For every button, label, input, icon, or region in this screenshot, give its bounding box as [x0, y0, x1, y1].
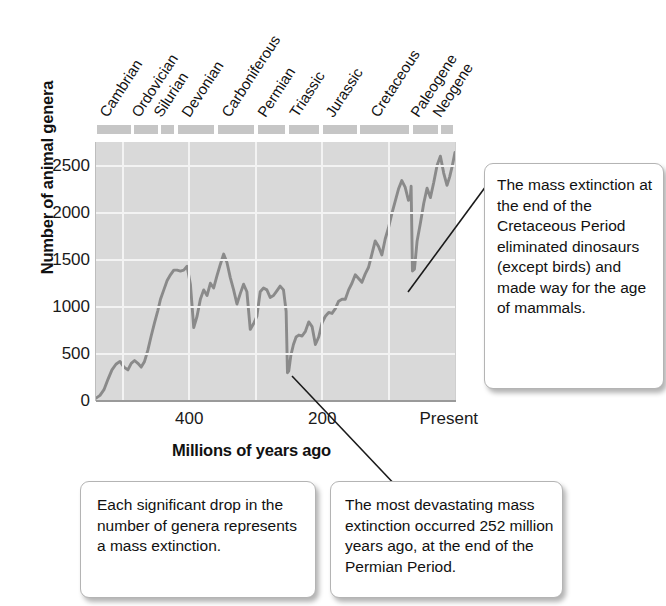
callout-cretaceous-extinction: The mass extinction at the end of the Cr…	[484, 163, 664, 389]
period-band-triassic	[289, 125, 319, 134]
gridline-h	[96, 259, 455, 261]
gridline-v	[388, 142, 390, 401]
callout-drops-text: Each significant drop in the number of g…	[97, 495, 307, 557]
period-label-group: CambrianOrdovicianSilurianDevonianCarbon…	[0, 0, 666, 130]
x-tick-400: 400	[175, 409, 203, 429]
gridline-h	[96, 212, 455, 214]
x-axis-title: Millions of years ago	[172, 441, 331, 460]
gridline-v	[321, 142, 323, 401]
gridline-v	[255, 142, 257, 401]
callout-permian-extinction: The most devastating mass extinction occ…	[330, 481, 563, 598]
callout-permian-text: The most devastating mass extinction occ…	[345, 495, 554, 577]
period-band-paleogene	[413, 125, 438, 134]
geologic-genera-figure: CambrianOrdovicianSilurianDevonianCarbon…	[0, 0, 666, 606]
y-tick-1500: 1500	[32, 251, 90, 268]
y-tick-2000: 2000	[32, 204, 90, 221]
gridline-v	[122, 142, 124, 401]
x-axis-line	[96, 400, 456, 402]
geologic-period-band	[96, 125, 456, 134]
y-tick-0: 0	[32, 392, 90, 409]
gridline-h	[96, 353, 455, 355]
y-tick-2500: 2500	[32, 157, 90, 174]
gridline-h	[96, 306, 455, 308]
plot-area	[96, 142, 456, 401]
callout-significant-drops: Each significant drop in the number of g…	[80, 481, 316, 598]
period-band-permian	[258, 125, 286, 134]
gridline-v	[188, 142, 190, 401]
genera-line-series	[96, 142, 455, 401]
period-band-carboniferous	[218, 125, 254, 134]
period-band-jurassic	[323, 125, 357, 134]
x-tick-present: Present	[420, 409, 479, 429]
x-tick-200: 200	[308, 409, 336, 429]
period-band-devonian	[178, 125, 214, 134]
callout-cretaceous-text: The mass extinction at the end of the Cr…	[497, 175, 654, 319]
period-band-neogene	[441, 125, 453, 134]
y-tick-500: 500	[32, 345, 90, 362]
period-band-cambrian	[97, 125, 131, 134]
period-band-cretaceous	[360, 125, 409, 134]
y-tick-1000: 1000	[32, 298, 90, 315]
period-band-ordovician	[134, 125, 158, 134]
gridline-h	[96, 165, 455, 167]
genera-curve	[96, 152, 455, 398]
period-band-silurian	[161, 125, 174, 134]
period-label-jurassic: Jurassic	[322, 65, 366, 120]
